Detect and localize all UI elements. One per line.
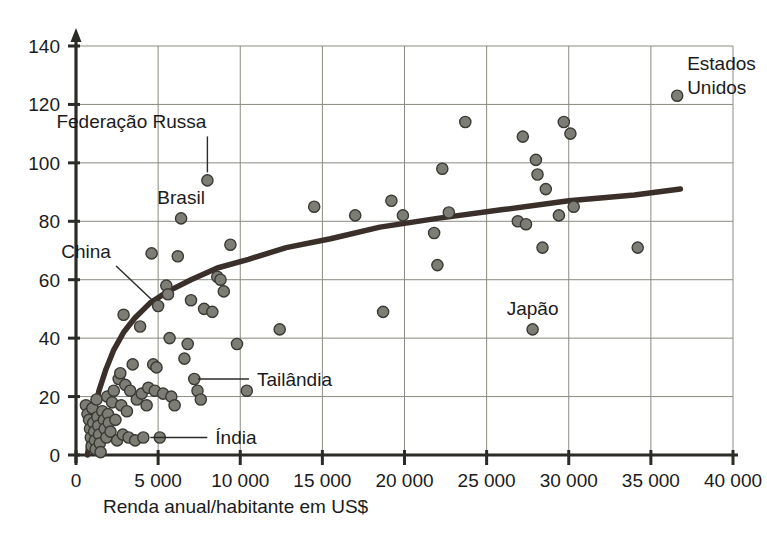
x-tick-label: 25 000 <box>458 470 516 491</box>
annotation-label: China <box>61 241 111 262</box>
x-tick-label: 30 000 <box>540 470 598 491</box>
data-point <box>432 260 443 271</box>
x-tick-label: 35 000 <box>622 470 680 491</box>
data-point <box>568 201 579 212</box>
y-tick-label: 120 <box>28 94 60 115</box>
data-point <box>537 242 548 253</box>
data-point <box>135 321 146 332</box>
data-point <box>121 406 132 417</box>
annotation-label: Brasil <box>157 187 205 208</box>
data-point <box>386 195 397 206</box>
data-point <box>540 184 551 195</box>
data-point <box>138 432 149 443</box>
data-point <box>141 400 152 411</box>
data-point <box>565 128 576 139</box>
x-tick-label: 0 <box>71 470 82 491</box>
y-tick-label: 0 <box>49 445 60 466</box>
data-point <box>460 116 471 127</box>
data-point <box>429 227 440 238</box>
data-point <box>437 163 448 174</box>
annotation-label: Índia <box>215 427 257 448</box>
annotation-label: Estados <box>687 53 756 74</box>
data-point <box>231 338 242 349</box>
data-point <box>108 385 119 396</box>
y-tick-label: 60 <box>39 270 60 291</box>
data-point <box>397 210 408 221</box>
x-tick-label: 20 000 <box>375 470 433 491</box>
data-point <box>95 447 106 458</box>
data-point <box>241 385 252 396</box>
data-point <box>350 210 361 221</box>
data-point <box>146 248 157 259</box>
data-point <box>443 207 454 218</box>
x-tick-label: 5 000 <box>134 470 182 491</box>
data-point <box>553 210 564 221</box>
trend-line <box>88 189 681 455</box>
data-point <box>218 286 229 297</box>
data-point <box>169 400 180 411</box>
x-tick-label: 15 000 <box>293 470 351 491</box>
data-point <box>127 359 138 370</box>
y-tick-label: 140 <box>28 36 60 57</box>
data-point <box>162 289 173 300</box>
data-point <box>185 295 196 306</box>
y-tick-label: 80 <box>39 211 60 232</box>
data-point <box>215 274 226 285</box>
annotation-label: Unidos <box>687 77 746 98</box>
data-point <box>182 338 193 349</box>
axis-ticks <box>68 46 733 465</box>
data-point <box>153 300 164 311</box>
data-point <box>309 201 320 212</box>
data-point <box>195 394 206 405</box>
data-point <box>179 353 190 364</box>
data-point <box>172 251 183 262</box>
chart-canvas: 020406080100120140 05 00010 00015 00020 … <box>0 0 767 556</box>
y-tick-label: 100 <box>28 153 60 174</box>
data-point <box>520 219 531 230</box>
data-point <box>517 131 528 142</box>
data-point <box>532 169 543 180</box>
annotation-label: Federação Russa <box>56 111 206 132</box>
data-point <box>207 306 218 317</box>
data-point <box>91 394 102 405</box>
data-point <box>115 368 126 379</box>
y-axis-tick-labels: 020406080100120140 <box>28 36 60 466</box>
y-tick-label: 40 <box>39 328 60 349</box>
data-point <box>176 213 187 224</box>
data-point <box>110 414 121 425</box>
scatter-chart: 020406080100120140 05 00010 00015 00020 … <box>0 0 767 556</box>
data-point <box>672 90 683 101</box>
data-point <box>118 309 129 320</box>
data-point <box>151 362 162 373</box>
data-point <box>225 239 236 250</box>
data-point <box>164 333 175 344</box>
data-point <box>527 324 538 335</box>
annotation-label: Japão <box>507 298 559 319</box>
data-points <box>80 90 683 458</box>
x-tick-label: 10 000 <box>211 470 269 491</box>
data-point <box>274 324 285 335</box>
leader-line <box>116 266 153 301</box>
x-axis-tick-labels: 05 00010 00015 00020 00025 00030 00035 0… <box>71 470 762 491</box>
data-point <box>202 175 213 186</box>
y-tick-label: 20 <box>39 387 60 408</box>
data-point <box>378 306 389 317</box>
annotation-label: Tailândia <box>257 369 332 390</box>
data-point <box>632 242 643 253</box>
x-tick-label: 40 000 <box>704 470 762 491</box>
trend-curve <box>88 189 681 455</box>
data-point <box>558 116 569 127</box>
y-axis-arrow <box>71 28 82 42</box>
data-point <box>530 154 541 165</box>
x-axis-title: Renda anual/habitante em US$ <box>103 496 369 517</box>
